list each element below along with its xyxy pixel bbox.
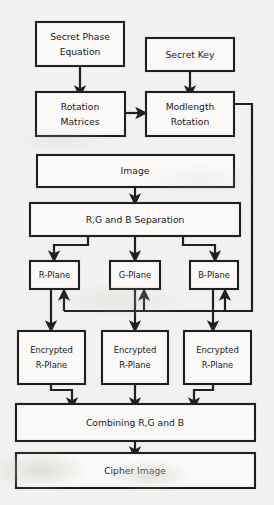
- node-encrypted-r-plane-3-label-line1: Encrypted: [196, 345, 239, 355]
- node-rotation-matrices-label-line1: Rotation: [61, 101, 100, 112]
- node-rotation-matrices[interactable]: Rotation Matrices: [36, 92, 125, 136]
- node-combining-rgb[interactable]: Combining R,G and B: [16, 404, 255, 441]
- node-rotation-matrices-label-line2: Matrices: [61, 116, 100, 127]
- node-encrypted-r-plane-3-label-line2: R-Plane: [202, 360, 233, 370]
- node-image-label: Image: [121, 165, 150, 176]
- flowchart-svg: Secret Phase Equation Secret Key Rotatio…: [0, 0, 274, 505]
- edge-encrypted-1-to-combining: [51, 384, 72, 404]
- edge-encrypted-3-to-combining: [194, 384, 213, 404]
- node-r-plane-label: R-Plane: [39, 270, 70, 280]
- flowchart-diagram: Secret Phase Equation Secret Key Rotatio…: [0, 0, 274, 505]
- node-modlength-rotation-label-line1: Modlength: [166, 101, 215, 112]
- edge-rgb-separation-to-b-plane: [183, 236, 215, 257]
- node-combining-rgb-label: Combining R,G and B: [86, 417, 184, 428]
- node-secret-phase-equation-label-line1: Secret Phase: [50, 31, 110, 42]
- node-modlength-rotation[interactable]: Modlength Rotation: [146, 92, 234, 136]
- node-encrypted-r-plane-1[interactable]: Encrypted R-Plane: [18, 331, 85, 384]
- node-modlength-rotation-label-line2: Rotation: [171, 116, 210, 127]
- node-secret-key-label: Secret Key: [166, 49, 216, 60]
- node-secret-phase-equation-label-line2: Equation: [60, 46, 101, 57]
- node-encrypted-r-plane-2[interactable]: Encrypted R-Plane: [102, 331, 168, 384]
- edge-rgb-separation-to-r-plane: [54, 236, 88, 257]
- node-b-plane[interactable]: B-Plane: [190, 261, 238, 289]
- node-g-plane[interactable]: G-Plane: [110, 261, 160, 289]
- node-encrypted-r-plane-1-label-line1: Encrypted: [30, 345, 73, 355]
- node-rgb-separation-label: R,G and B Separation: [86, 214, 185, 225]
- node-rgb-separation[interactable]: R,G and B Separation: [30, 203, 240, 236]
- node-encrypted-r-plane-3[interactable]: Encrypted R-Plane: [184, 331, 251, 384]
- node-b-plane-label: B-Plane: [198, 270, 230, 280]
- node-secret-key[interactable]: Secret Key: [146, 38, 234, 71]
- node-encrypted-r-plane-2-label-line2: R-Plane: [119, 360, 150, 370]
- node-r-plane[interactable]: R-Plane: [30, 261, 79, 289]
- node-image[interactable]: Image: [37, 155, 234, 187]
- node-encrypted-r-plane-1-label-line2: R-Plane: [36, 360, 67, 370]
- node-cipher-image[interactable]: Cipher Image: [16, 453, 255, 488]
- node-encrypted-r-plane-2-label-line1: Encrypted: [114, 345, 157, 355]
- node-secret-phase-equation[interactable]: Secret Phase Equation: [36, 22, 124, 66]
- node-g-plane-label: G-Plane: [119, 270, 151, 280]
- node-cipher-image-label: Cipher Image: [104, 465, 166, 476]
